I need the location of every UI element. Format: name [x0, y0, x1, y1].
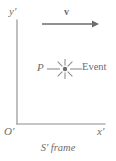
event-label: Event [82, 62, 107, 73]
starburst-ray-se [68, 72, 73, 77]
velocity-arrow-group [42, 21, 99, 28]
starburst-ray-ne [68, 62, 73, 67]
figure-caption: S′ frame [0, 143, 116, 154]
starburst-ray-sw [58, 72, 63, 77]
point-p-label: P [37, 62, 44, 73]
event-center-dot [63, 67, 67, 71]
y-axis-label: y′ [9, 6, 16, 17]
origin-label: O′ [4, 126, 14, 137]
figure-root: y′ x′ O′ v P Event S′ frame [0, 0, 116, 161]
starburst-icon [47, 59, 82, 79]
velocity-vector-label: v [64, 7, 69, 17]
starburst-ray-nw [58, 62, 63, 67]
x-axis-label: x′ [97, 126, 104, 137]
velocity-arrow-head [92, 21, 99, 28]
